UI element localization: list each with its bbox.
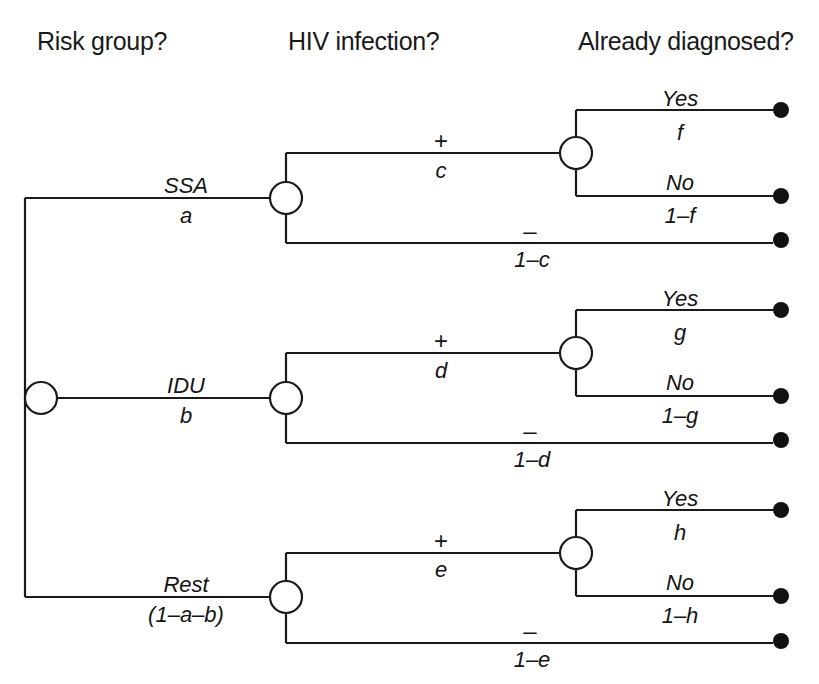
branch-sign-ssa-positive: + xyxy=(434,129,448,153)
branch-sign-rest-positive: + xyxy=(434,529,448,553)
branch-sign-idu-positive: + xyxy=(434,329,448,353)
column-header-hiv-infection: HIV infection? xyxy=(288,27,439,56)
branch-prob-idu-positive: d xyxy=(435,360,447,382)
decision-tree-diagram: Risk group? HIV infection? Already diagn… xyxy=(0,0,819,684)
terminal-rest-neg xyxy=(773,633,789,649)
branch-label-ssa-no: No xyxy=(666,172,694,194)
terminal-ssa-neg xyxy=(773,232,789,248)
branch-prob-idu-negative: 1–d xyxy=(514,449,551,471)
terminal-rest-no xyxy=(773,588,789,604)
branch-label-ssa: SSA xyxy=(164,175,208,197)
node-idu xyxy=(270,382,302,414)
branch-label-rest-no: No xyxy=(666,572,694,594)
branch-prob-rest-negative: 1–e xyxy=(514,649,551,671)
branch-prob-ssa-negative: 1–c xyxy=(514,249,549,271)
node-ssa xyxy=(270,182,302,214)
branch-prob-rest: (1–a–b) xyxy=(148,604,224,626)
node-root xyxy=(25,382,57,414)
terminal-ssa-no xyxy=(773,188,789,204)
column-header-risk-group: Risk group? xyxy=(37,27,167,56)
terminal-idu-yes xyxy=(773,302,789,318)
branch-sign-ssa-negative: – xyxy=(523,219,536,243)
terminal-rest-yes xyxy=(773,502,789,518)
branch-prob-idu-no: 1–g xyxy=(662,405,699,427)
node-idu-dx xyxy=(560,337,592,369)
branch-label-idu-no: No xyxy=(666,372,694,394)
branch-prob-rest-yes: h xyxy=(674,522,686,544)
branch-prob-rest-no: 1–h xyxy=(662,605,699,627)
branch-label-rest-yes: Yes xyxy=(662,488,699,510)
branch-prob-ssa-no: 1–f xyxy=(665,205,696,227)
branch-prob-ssa-yes: f xyxy=(677,122,683,144)
branch-sign-rest-negative: – xyxy=(523,619,536,643)
branch-prob-ssa: a xyxy=(180,205,192,227)
node-rest-dx xyxy=(560,537,592,569)
branch-sign-idu-negative: – xyxy=(523,419,536,443)
branch-label-ssa-yes: Yes xyxy=(662,88,699,110)
branch-prob-ssa-positive: c xyxy=(436,160,447,182)
branch-prob-idu-yes: g xyxy=(674,322,686,344)
column-header-already-diagnosed: Already diagnosed? xyxy=(578,27,794,56)
terminal-idu-neg xyxy=(773,432,789,448)
branch-label-idu: IDU xyxy=(167,375,205,397)
node-ssa-dx xyxy=(560,137,592,169)
branch-label-idu-yes: Yes xyxy=(662,288,699,310)
node-rest xyxy=(270,581,302,613)
branch-prob-idu: b xyxy=(180,405,192,427)
terminal-ssa-yes xyxy=(773,102,789,118)
branch-prob-rest-positive: e xyxy=(435,559,447,581)
branch-label-rest: Rest xyxy=(163,574,208,596)
terminal-idu-no xyxy=(773,388,789,404)
